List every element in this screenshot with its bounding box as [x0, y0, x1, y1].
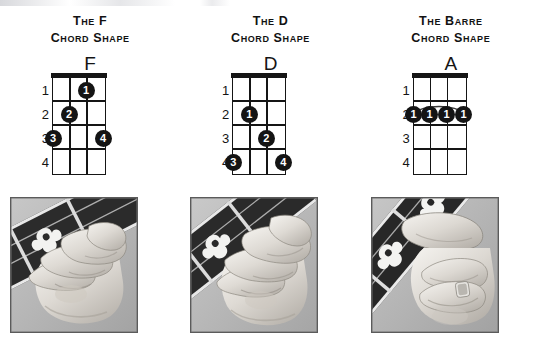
finger-dot: 1: [438, 106, 455, 123]
fretboard-wrapper: 1 2 3 4 1 2 3 4: [0, 73, 180, 181]
fret-number-3: 3: [394, 132, 410, 145]
chord-heading: The D Chord Shape: [180, 13, 360, 47]
chord-photo-d: [190, 197, 318, 333]
string-line-3: [266, 78, 268, 174]
chord-column-barre-chord: The Barre Chord Shape A 1 2 3 4: [361, 0, 541, 350]
chord-photo-barre: [371, 197, 499, 333]
finger-dot: 1: [241, 106, 258, 123]
finger-dot: 1: [78, 82, 95, 99]
fret-line-2: [233, 124, 285, 126]
fretboard-diagram: 1 2 3 4: [232, 73, 286, 175]
fret-line-2: [414, 124, 466, 126]
fret-line-3: [233, 148, 285, 150]
finger-dot: 3: [45, 130, 62, 147]
chord-heading-line1: The Barre: [419, 14, 483, 28]
finger-dot: 1: [405, 106, 422, 123]
finger-dot: 4: [275, 154, 292, 171]
finger-dot: 2: [61, 106, 78, 123]
fret-number-4: 4: [394, 156, 410, 169]
chord-letter: F: [0, 54, 180, 74]
fret-number-1: 1: [213, 84, 229, 97]
chord-letter: A: [361, 54, 541, 74]
fret-number-4: 4: [33, 156, 49, 169]
chord-heading: The F Chord Shape: [0, 13, 180, 47]
chord-heading-line2: Chord Shape: [180, 30, 360, 47]
fret-line-1: [53, 100, 105, 102]
finger-dot: 3: [225, 154, 242, 171]
fret-line-1: [233, 100, 285, 102]
fret-line-3: [53, 148, 105, 150]
string-line-3: [447, 78, 449, 174]
chord-heading: The Barre Chord Shape: [361, 13, 541, 47]
chord-heading-line1: The D: [253, 14, 289, 28]
chord-letter: D: [180, 54, 360, 74]
fret-number-3: 3: [213, 132, 229, 145]
fret-number-1: 1: [33, 84, 49, 97]
fret-line-3: [414, 148, 466, 150]
finger-dot: 1: [455, 106, 472, 123]
fret-number-2: 2: [33, 108, 49, 121]
chord-shape-columns: The F Chord Shape F 1 2 3 4 1: [0, 0, 541, 350]
finger-dot: 2: [258, 130, 275, 147]
fret-line-1: [414, 100, 466, 102]
fretboard-wrapper: 1 2 3 4 1 1 1: [361, 73, 541, 181]
chord-column-d-chord: The D Chord Shape D 1 2 3 4 1: [180, 0, 360, 350]
fretboard-diagram: 1 1 1 1: [413, 73, 467, 175]
string-line-2: [430, 78, 432, 174]
chord-photo-d-image: [191, 198, 317, 332]
fret-number-2: 2: [213, 108, 229, 121]
string-line-2: [249, 78, 251, 174]
fretboard-diagram: 1 2 3 4: [52, 73, 106, 175]
fretboard-wrapper: 1 2 3 4 1 2 3 4: [180, 73, 360, 181]
string-line-2: [69, 78, 71, 174]
chord-heading-line2: Chord Shape: [0, 30, 180, 47]
chord-heading-line2: Chord Shape: [361, 30, 541, 47]
chord-heading-line1: The F: [73, 14, 107, 28]
fret-number-list: 1 2 3 4: [33, 78, 49, 174]
chord-photo-f: [10, 197, 138, 333]
fret-number-1: 1: [394, 84, 410, 97]
chord-photo-f-image: [11, 198, 137, 332]
fret-number-list: 1 2 3 4: [394, 78, 410, 174]
chord-column-f-chord: The F Chord Shape F 1 2 3 4 1: [0, 0, 180, 350]
finger-dot: 4: [95, 130, 112, 147]
fret-line-2: [53, 124, 105, 126]
finger-dot: 1: [421, 106, 438, 123]
chord-photo-barre-image: [372, 198, 498, 332]
fret-grid: [413, 78, 467, 175]
